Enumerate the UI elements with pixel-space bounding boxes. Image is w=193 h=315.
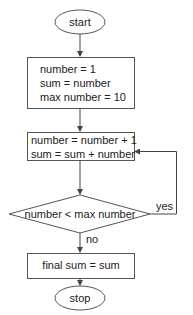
final-label: final sum = sum xyxy=(27,259,135,272)
decision-label: number < max number xyxy=(20,208,140,221)
init-line-3: max number = 10 xyxy=(40,91,126,104)
yes-label: yes xyxy=(156,200,173,213)
loop-line-1: number = number + 1 xyxy=(31,134,137,147)
start-label: start xyxy=(55,16,105,29)
init-line-2: sum = number xyxy=(40,77,111,90)
init-line-1: number = 1 xyxy=(40,63,96,76)
stop-label: stop xyxy=(55,292,105,305)
loop-line-2: sum = sum + number xyxy=(31,148,135,161)
no-label: no xyxy=(86,233,98,246)
